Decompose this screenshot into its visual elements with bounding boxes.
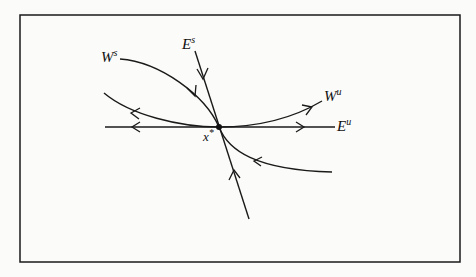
stable-eigenspace-label: Es <box>181 34 195 52</box>
figure-frame <box>20 15 460 262</box>
phase-portrait-diagram: Es Eu Ws Wu x* <box>0 0 476 277</box>
stable-manifold-curve <box>120 59 332 172</box>
arrow-down-right-icon <box>187 85 196 96</box>
stable-manifold-label: Ws <box>101 47 118 65</box>
fixed-point-label: x* <box>202 127 214 144</box>
unstable-manifold-label: Wu <box>324 86 342 104</box>
fixed-point-dot <box>216 124 222 130</box>
unstable-eigenspace-label: Eu <box>336 116 351 134</box>
